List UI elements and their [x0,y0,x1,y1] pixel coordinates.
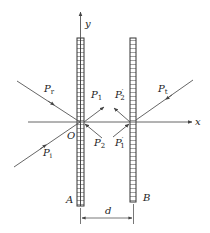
label-pr: Pr [43,83,55,96]
label-p2: P2 [93,137,105,150]
spacing-label: d [105,205,111,216]
x-axis-label: x [195,116,201,127]
label-pt: Pt [157,83,168,96]
label-pi: Pi [42,147,53,160]
diagram-canvas: y x O A B d Pr Pi P1 P2 P′2 P′1 Pt [0,0,210,233]
label-p1-prime: P′1 [114,136,125,150]
y-axis-label: y [84,18,91,29]
wall-b-label: B [142,192,150,203]
wall-a-label: A [65,194,73,205]
wave-p2 [85,124,102,138]
wave-pi [14,122,80,167]
wall-b [130,38,136,202]
wave-p2-prime [114,108,130,122]
origin-label: O [67,130,75,141]
label-p1: P1 [90,89,102,102]
wave-p1 [84,107,104,122]
label-p2-prime: P′2 [114,88,125,102]
